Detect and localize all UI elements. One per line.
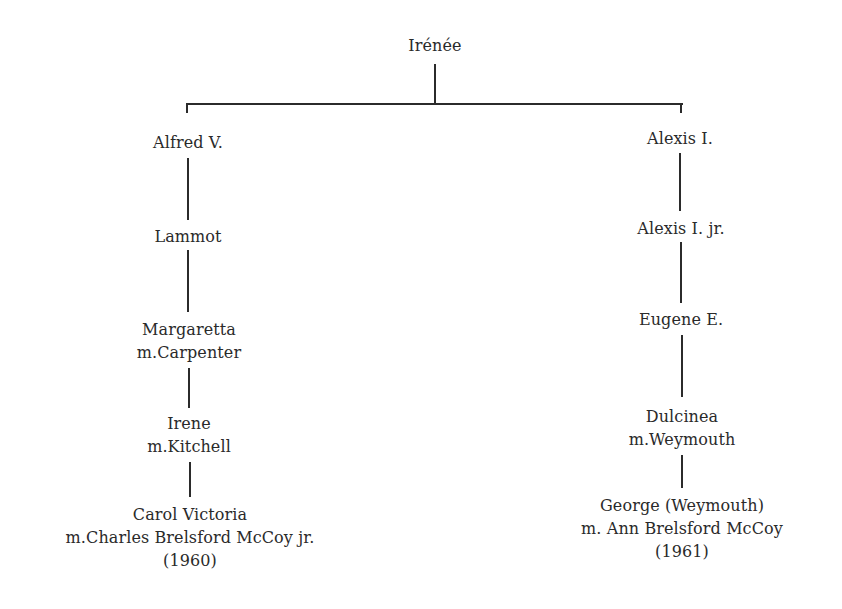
node-name: Irene xyxy=(147,412,231,435)
node-alfred-v: Alfred V. xyxy=(153,131,223,154)
node-marriage: m.Carpenter xyxy=(137,341,241,364)
connector-eugene-dulcinea xyxy=(681,335,683,397)
node-name: Dulcinea xyxy=(629,405,736,428)
node-marriage: m. Ann Brelsford McCoy xyxy=(581,517,783,540)
node-name: Alexis I. jr. xyxy=(637,217,724,240)
connector-margaretta-irene xyxy=(188,368,190,408)
node-eugene-e: Eugene E. xyxy=(639,308,723,331)
node-name: Lammot xyxy=(154,225,221,248)
node-alexis-i-jr: Alexis I. jr. xyxy=(637,217,724,240)
node-alexis-i: Alexis I. xyxy=(647,127,713,150)
node-root-irenee: Irénée xyxy=(408,34,461,57)
connector-dulcinea-george xyxy=(681,455,683,488)
node-name: Irénée xyxy=(408,34,461,57)
node-year: (1961) xyxy=(581,540,783,563)
node-lammot: Lammot xyxy=(154,225,221,248)
node-marriage: m.Charles Brelsford McCoy jr. xyxy=(66,526,315,549)
family-tree-diagram: Irénée Alfred V. Lammot Margaretta m.Car… xyxy=(0,0,842,609)
node-year: (1960) xyxy=(66,549,315,572)
node-name: Alexis I. xyxy=(647,127,713,150)
connector-alfred-lammot xyxy=(187,158,189,220)
connector-root-drop xyxy=(434,64,436,105)
node-name: Margaretta xyxy=(137,318,241,341)
node-marriage: m.Kitchell xyxy=(147,435,231,458)
node-margaretta: Margaretta m.Carpenter xyxy=(137,318,241,364)
node-dulcinea: Dulcinea m.Weymouth xyxy=(629,405,736,451)
node-name: Eugene E. xyxy=(639,308,723,331)
node-name: Alfred V. xyxy=(153,131,223,154)
connector-sibling-bar xyxy=(186,103,683,105)
node-marriage: m.Weymouth xyxy=(629,428,736,451)
node-irene: Irene m.Kitchell xyxy=(147,412,231,458)
node-name: Carol Victoria xyxy=(66,503,315,526)
node-name: George (Weymouth) xyxy=(581,494,783,517)
connector-left-drop xyxy=(186,103,188,113)
connector-right-drop xyxy=(680,103,682,113)
node-carol-victoria: Carol Victoria m.Charles Brelsford McCoy… xyxy=(66,503,315,572)
connector-alexisjr-eugene xyxy=(680,242,682,303)
node-george-weymouth: George (Weymouth) m. Ann Brelsford McCoy… xyxy=(581,494,783,563)
connector-lammot-margaretta xyxy=(187,250,189,312)
connector-alexis-alexisjr xyxy=(679,153,681,211)
connector-irene-carol xyxy=(189,462,191,497)
